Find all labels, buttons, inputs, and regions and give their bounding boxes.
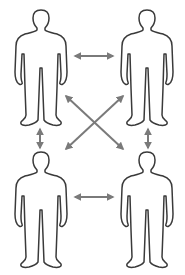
person-icon bbox=[15, 10, 67, 125]
diagram-svg bbox=[0, 0, 185, 275]
person-icon bbox=[15, 152, 67, 267]
communication-diagram bbox=[0, 0, 185, 275]
person-icon bbox=[121, 152, 173, 267]
person-icon bbox=[121, 10, 173, 125]
